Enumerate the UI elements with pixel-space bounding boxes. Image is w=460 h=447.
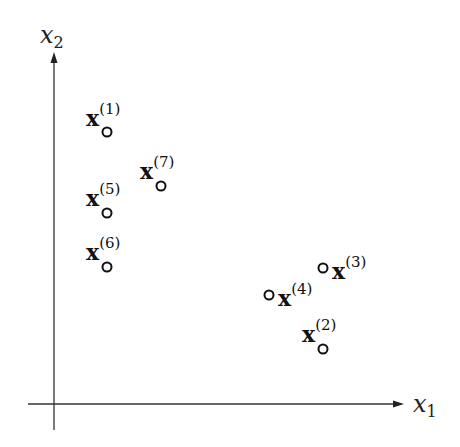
point-label-sup: (3) [345, 253, 366, 271]
point-label: x(3) [332, 253, 366, 284]
data-point-3: x(3) [319, 253, 367, 284]
y-axis-label-sub: 2 [54, 33, 64, 52]
point-label: x(1) [86, 100, 120, 131]
x-axis: x1 [28, 390, 437, 421]
point-label-sup: (6) [99, 234, 120, 252]
point-marker-icon [103, 263, 112, 272]
point-marker-icon [103, 209, 112, 218]
point-label: x(2) [302, 316, 336, 347]
point-label: x(4) [278, 280, 312, 311]
data-point-1: x(1) [86, 100, 120, 137]
point-label-sup: (4) [291, 280, 312, 298]
x-axis-arrow-icon [393, 401, 404, 408]
point-label-sup: (7) [153, 153, 174, 171]
point-marker-icon [319, 264, 328, 273]
point-marker-icon [157, 182, 166, 191]
point-label: x(6) [86, 234, 120, 265]
data-point-2: x(2) [302, 316, 336, 354]
point-label-symbol: x [332, 258, 346, 284]
y-axis: x2 [40, 21, 64, 430]
point-label: x(7) [140, 153, 174, 184]
point-label-sup: (5) [99, 180, 120, 198]
y-axis-label-var: x [40, 21, 54, 49]
point-label-symbol: x [86, 239, 100, 265]
data-point-7: x(7) [140, 153, 174, 191]
point-label-symbol: x [86, 185, 100, 211]
point-label: x(5) [86, 180, 120, 211]
point-label-sup: (2) [315, 316, 336, 334]
y-axis-arrow-icon [51, 52, 58, 63]
point-label-symbol: x [302, 321, 316, 347]
x-axis-label-sub: 1 [427, 402, 437, 421]
x-axis-label-var: x [413, 390, 427, 418]
point-label-symbol: x [278, 285, 292, 311]
point-marker-icon [103, 128, 112, 137]
point-label-symbol: x [140, 158, 154, 184]
point-label-symbol: x [86, 105, 100, 131]
point-label-sup: (1) [99, 100, 120, 118]
data-point-5: x(5) [86, 180, 120, 218]
point-marker-icon [319, 345, 328, 354]
data-point-6: x(6) [86, 234, 120, 272]
y-axis-label: x2 [40, 21, 64, 52]
data-point-4: x(4) [265, 280, 313, 311]
scatter-diagram: x2 x1 x(1) x(7) x(5) x(6) [0, 0, 460, 447]
x-axis-label: x1 [413, 390, 437, 421]
point-marker-icon [265, 291, 274, 300]
